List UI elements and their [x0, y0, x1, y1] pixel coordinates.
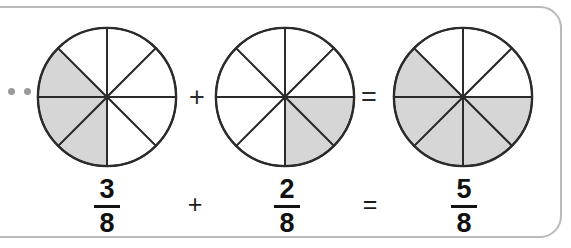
fraction-second: 2 8	[257, 176, 317, 237]
pie-svg-2	[212, 22, 358, 172]
fraction-first: 3 8	[77, 176, 137, 237]
fraction-result: 5 8	[434, 176, 494, 237]
plus-operator-fractions: +	[178, 192, 212, 217]
fraction-result-denominator: 8	[434, 210, 494, 237]
circle-two-eighths	[212, 22, 358, 172]
fraction-first-denominator: 8	[77, 210, 137, 237]
fraction-result-numerator: 5	[434, 176, 494, 203]
circle-three-eighths	[34, 22, 180, 172]
plus-operator-circles: +	[180, 84, 214, 111]
fraction-second-denominator: 8	[257, 210, 317, 237]
fraction-first-numerator: 3	[77, 176, 137, 203]
fraction-circles-row: + =	[0, 22, 571, 174]
equals-operator-fractions: =	[353, 192, 387, 217]
circle-five-eighths	[390, 22, 536, 172]
pie-svg-3	[390, 22, 536, 172]
fractions-row: 3 8 + 2 8 = 5 8	[0, 176, 571, 238]
equals-operator-circles: =	[352, 84, 386, 111]
pie-svg-1	[34, 22, 180, 172]
fraction-second-numerator: 2	[257, 176, 317, 203]
